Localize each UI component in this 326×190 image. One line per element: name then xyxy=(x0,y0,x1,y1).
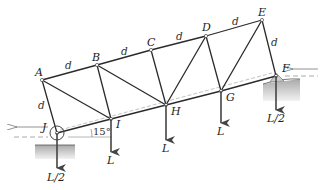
load-label-j: L/2 xyxy=(46,171,65,184)
load-label-f: L/2 xyxy=(266,112,285,125)
node-label-j: J xyxy=(40,121,47,134)
node-label-h: H xyxy=(170,105,181,118)
node-label-f: F xyxy=(281,62,290,75)
node-label-a: A xyxy=(34,66,43,79)
support-f xyxy=(263,73,300,101)
dim-label-ab: d xyxy=(65,59,72,71)
dim-label-cd: d xyxy=(176,30,183,42)
node-label-b: B xyxy=(91,51,100,64)
dim-label-bc: d xyxy=(121,45,128,57)
node-label-e: E xyxy=(257,6,266,19)
truss-diagram: A B C D E F G H I J d d d d d d 15° L/2 … xyxy=(0,0,326,190)
dim-label-aj: d xyxy=(38,99,45,111)
joints xyxy=(40,18,277,134)
dim-label-de: d xyxy=(232,15,239,27)
load-label-h: L xyxy=(161,142,169,155)
angle-arc xyxy=(91,129,92,137)
angle-label: 15° xyxy=(93,126,111,137)
dim-label-ef: d xyxy=(271,36,278,48)
truss-members xyxy=(42,20,276,133)
node-label-d: D xyxy=(201,21,211,34)
load-label-i: L xyxy=(106,154,114,167)
node-label-i: I xyxy=(115,118,121,131)
node-label-c: C xyxy=(147,36,156,49)
load-label-g: L xyxy=(216,125,224,138)
node-label-g: G xyxy=(226,91,235,104)
support-j xyxy=(35,145,75,159)
